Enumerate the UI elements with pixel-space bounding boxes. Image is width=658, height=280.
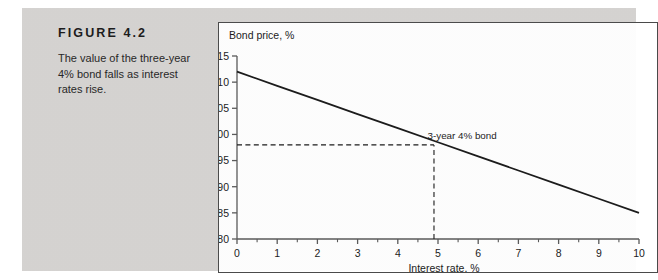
figure-root: FIGURE 4.2 The value of the three-year 4…: [0, 0, 658, 280]
x-tick-label: 3: [355, 247, 361, 259]
figure-number-label: FIGURE 4.2: [58, 26, 208, 40]
y-tick-label: 95: [219, 154, 229, 166]
chart-container: Bond price, % 80859095100105110115012345…: [218, 22, 658, 273]
y-tick-label: 80: [219, 233, 229, 245]
x-tick-label: 4: [395, 247, 401, 259]
series-annotation: 3-year 4% bond: [428, 130, 497, 141]
y-tick-label: 85: [219, 207, 229, 219]
y-tick-label: 100: [219, 128, 229, 140]
series-line: [237, 72, 639, 213]
x-axis-title: Interest rate, %: [408, 262, 479, 272]
x-tick-label: 7: [515, 247, 521, 259]
x-tick-label: 2: [314, 247, 320, 259]
y-tick-label: 115: [219, 50, 229, 62]
figure-panel: FIGURE 4.2 The value of the three-year 4…: [22, 8, 636, 271]
x-tick-label: 9: [596, 247, 602, 259]
chart-plot: 808590951001051101150123456789103-year 4…: [219, 23, 657, 272]
x-tick-label: 0: [234, 247, 240, 259]
figure-caption-text: The value of the three-year 4% bond fall…: [58, 51, 196, 98]
y-tick-label: 110: [219, 76, 229, 88]
x-tick-label: 5: [435, 247, 441, 259]
x-tick-label: 8: [556, 247, 562, 259]
y-tick-label: 90: [219, 181, 229, 193]
y-tick-label: 105: [219, 102, 229, 114]
x-tick-label: 10: [633, 247, 645, 259]
figure-caption-block: FIGURE 4.2 The value of the three-year 4…: [58, 26, 208, 98]
x-tick-label: 6: [475, 247, 481, 259]
x-tick-label: 1: [274, 247, 280, 259]
